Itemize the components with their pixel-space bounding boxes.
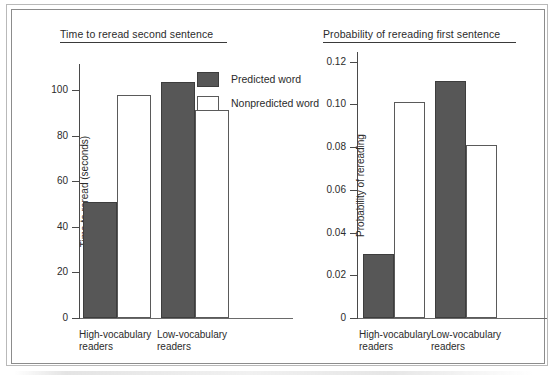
scan-artifact <box>14 371 534 375</box>
y-tick: 0.04 <box>350 233 358 234</box>
y-axis-title-right: Probability of rereading <box>355 120 366 250</box>
y-tick-label: 0.12 <box>327 57 346 67</box>
bar <box>83 202 117 318</box>
y-tick: 40 <box>72 227 80 228</box>
panel-right-title: Probability of rereading first sentence <box>323 28 516 43</box>
bar <box>363 254 394 318</box>
y-tick-label: 80 <box>57 131 68 141</box>
legend-label-predicted: Predicted word <box>231 73 301 85</box>
panel-left-title: Time to reread second sentence <box>60 28 227 43</box>
y-tick-label: 0.04 <box>327 228 346 238</box>
legend-swatch-predicted-icon <box>197 72 219 87</box>
y-tick-label: 0.02 <box>327 270 346 280</box>
y-tick-label: 20 <box>57 267 68 277</box>
y-axis-cap-left <box>79 64 80 91</box>
x-category-label: High-vocabulary readers <box>79 329 151 353</box>
y-tick-label: 0 <box>340 313 346 323</box>
legend-swatch-nonpredicted-icon <box>197 96 219 111</box>
y-tick: 20 <box>72 272 80 273</box>
bar <box>117 95 151 318</box>
y-tick: 100 <box>72 90 80 91</box>
x-axis-line-right <box>357 318 547 319</box>
y-tick: 80 <box>72 136 80 137</box>
y-tick: 0.02 <box>350 275 358 276</box>
figure-root: Time to reread second sentence Time to r… <box>0 0 554 383</box>
y-tick: 0 <box>350 318 358 319</box>
panel-probability-rereading: Probability of rereading first sentence … <box>293 9 545 364</box>
bar <box>394 102 425 318</box>
y-tick: 0.12 <box>350 62 358 63</box>
y-tick: 60 <box>72 181 80 182</box>
x-axis-line-left <box>79 318 293 319</box>
y-tick: 0.06 <box>350 190 358 191</box>
y-tick: 0.10 <box>350 104 358 105</box>
y-tick-label: 0.08 <box>327 142 346 152</box>
bar <box>435 81 466 318</box>
y-tick: 0 <box>72 318 80 319</box>
x-category-label: Low-vocabulary readers <box>157 329 227 353</box>
bar <box>466 145 497 318</box>
y-tick-label: 0 <box>62 313 68 323</box>
bar <box>195 110 229 318</box>
y-tick-label: 100 <box>51 85 68 95</box>
x-category-label: High-vocabulary readers <box>359 329 431 353</box>
panel-time-to-reread: Time to reread second sentence Time to r… <box>11 9 293 364</box>
y-tick-label: 0.06 <box>327 185 346 195</box>
bar <box>161 82 195 318</box>
y-tick-label: 60 <box>57 176 68 186</box>
x-category-label: Low-vocabulary readers <box>431 329 501 353</box>
y-tick-label: 40 <box>57 222 68 232</box>
y-tick-label: 0.10 <box>327 99 346 109</box>
y-tick: 0.08 <box>350 147 358 148</box>
plot-area-right: Probability of rereading 00.020.040.060.… <box>357 52 529 319</box>
